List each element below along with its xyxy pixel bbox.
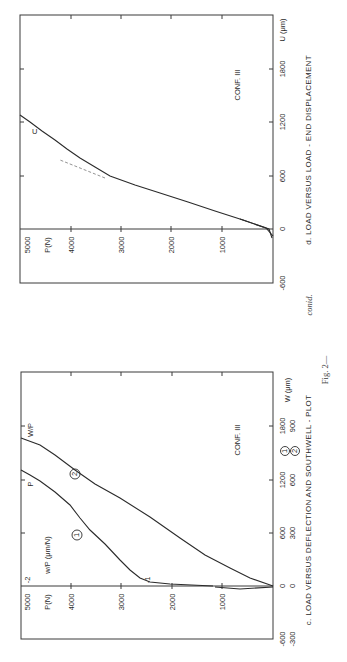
svg-text:300: 300 <box>288 527 297 540</box>
panel-d-caption: d. LOAD VERSUS LOAD - END DISPLACEMENT <box>304 55 313 245</box>
svg-text:-2: -2 <box>23 577 32 584</box>
panel-d-u-tick-labels: -600 0 600 1200 1800 U (μm) <box>278 18 287 291</box>
svg-text:2: 2 <box>70 472 79 476</box>
figure-label: Fig. 2— <box>320 355 330 384</box>
svg-text:P(N): P(N) <box>43 237 52 253</box>
svg-text:P(N): P(N) <box>43 594 52 610</box>
svg-text:1200: 1200 <box>278 114 287 131</box>
panel-c-config-label: CONF. III <box>233 425 242 456</box>
svg-text:1800: 1800 <box>278 418 287 435</box>
svg-text:1000: 1000 <box>218 594 227 611</box>
panel-d: 5000 4000 3000 2000 1000 P(N) -600 0 600… <box>20 15 314 316</box>
svg-text:-600: -600 <box>278 631 287 646</box>
panel-c-p-tick-labels: 5000 4000 3000 2000 1000 P(N) <box>23 594 227 611</box>
panel-d-frame <box>20 15 273 283</box>
panel-c-frame <box>21 372 273 639</box>
svg-text:-600: -600 <box>278 275 287 290</box>
panel-c-p-ticks <box>71 372 222 589</box>
svg-text:600: 600 <box>278 527 287 540</box>
svg-text:2000: 2000 <box>167 237 176 254</box>
svg-text:5000: 5000 <box>23 237 32 254</box>
svg-text:4000: 4000 <box>67 594 76 611</box>
svg-text:1200: 1200 <box>278 472 287 489</box>
svg-text:0: 0 <box>278 227 287 231</box>
svg-text:-300: -300 <box>288 631 297 646</box>
figure-caption-suffix: conid. <box>304 294 314 315</box>
panel-c-wp-labels: -2 -1 w/P (μm/N) <box>23 536 152 584</box>
figure-canvas: 5000 4000 3000 2000 1000 P(N) -600 0 600… <box>0 0 347 662</box>
panel-c-caption: c. LOAD VERSUS DEFLECTION AND SOUTHWELL … <box>304 395 313 625</box>
svg-text:1: 1 <box>280 449 289 453</box>
panel-c-curve-label-wp: W/P <box>26 423 35 437</box>
svg-text:0: 0 <box>278 584 287 588</box>
svg-text:3000: 3000 <box>117 594 126 611</box>
svg-text:5000: 5000 <box>23 594 32 611</box>
panel-c-curve-wp <box>21 438 273 586</box>
svg-text:2000: 2000 <box>168 594 177 611</box>
svg-text:900: 900 <box>288 420 297 433</box>
svg-text:0: 0 <box>288 584 297 588</box>
panel-d-p-ticks <box>71 15 222 232</box>
panel-c-curve-label-p: P <box>26 481 35 486</box>
svg-text:1800: 1800 <box>278 61 287 78</box>
panel-c: 5000 4000 3000 2000 1000 P(N) -2 -1 w/P … <box>21 355 330 646</box>
svg-text:W (μm): W (μm) <box>283 377 292 402</box>
svg-text:600: 600 <box>288 474 297 487</box>
svg-text:U (μm): U (μm) <box>278 18 287 42</box>
panel-d-p-tick-labels: 5000 4000 3000 2000 1000 P(N) <box>23 237 227 254</box>
panel-c-marker-1: 1 <box>72 530 82 540</box>
svg-text:3000: 3000 <box>117 237 126 254</box>
panel-c-curve-p-initial <box>215 587 273 589</box>
panel-d-curve-label: U <box>32 127 37 136</box>
svg-text:4000: 4000 <box>67 237 76 254</box>
panel-d-curve-u-initial <box>240 219 273 236</box>
panel-d-config-label: CONF. III <box>233 70 242 101</box>
panel-d-curve-u <box>20 115 272 238</box>
panel-c-w-tick-labels: -600 -300 0 0 600 300 1200 600 1800 900 … <box>278 377 297 646</box>
svg-text:w/P (μm/N): w/P (μm/N) <box>43 536 52 575</box>
svg-text:600: 600 <box>278 170 287 183</box>
svg-text:1: 1 <box>72 533 81 537</box>
svg-text:2: 2 <box>290 449 299 453</box>
panel-c-scale-legend: 1 2 <box>280 447 300 456</box>
svg-text:1000: 1000 <box>218 237 227 254</box>
